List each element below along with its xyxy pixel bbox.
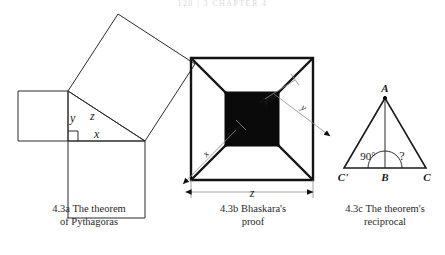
caption-4-3c-line1: 4.3c The theorem's — [345, 203, 425, 214]
label-point-b: B — [380, 171, 388, 183]
label-point-c: C — [423, 171, 431, 183]
right-angle-marker-icon — [68, 131, 78, 141]
figure-page: 120 | 3 CHAPTER 4 y z x 4.3a The theorem… — [0, 0, 445, 255]
caption-4-3b: 4.3b Bhaskara's proof — [183, 203, 323, 228]
figure-4-3a-diagram: y z x — [8, 14, 183, 189]
label-z: z — [89, 109, 95, 123]
caption-4-3c-line2: reciprocal — [326, 216, 444, 229]
vertex-dot-a — [383, 96, 386, 99]
figure-4-3c-diagram: A 90° ? C' B C — [330, 80, 445, 190]
label-z-bhaskara: z — [249, 186, 255, 200]
label-y-bhaskara: y — [298, 102, 309, 114]
label-angle-90: 90° — [360, 150, 375, 162]
right-triangle — [68, 91, 145, 141]
caption-4-3a-line2: of Pythagoras — [14, 216, 164, 229]
caption-4-3a: 4.3a The theorem of Pythagoras — [14, 203, 164, 228]
label-x-bhaskara: x — [200, 148, 211, 159]
figure-4-3b-diagram: y-x x y z — [178, 52, 328, 202]
caption-4-3a-line1: 4.3a The theorem — [52, 203, 126, 214]
label-angle-unknown: ? — [399, 149, 404, 163]
caption-4-3c: 4.3c The theorem's reciprocal — [326, 203, 444, 228]
square-on-leg-y — [18, 91, 68, 141]
label-x: x — [93, 127, 100, 141]
caption-4-3b-line2: proof — [183, 216, 323, 229]
label-point-a: A — [380, 82, 388, 94]
caption-4-3b-line1: 4.3b Bhaskara's — [220, 203, 286, 214]
square-on-hypotenuse-z — [68, 14, 195, 141]
dimension-line-y — [274, 94, 330, 136]
label-point-c-prime: C' — [338, 171, 348, 183]
label-y: y — [69, 111, 76, 125]
running-head: 120 | 3 CHAPTER 4 — [0, 0, 445, 8]
dimension-line-x — [187, 126, 240, 180]
